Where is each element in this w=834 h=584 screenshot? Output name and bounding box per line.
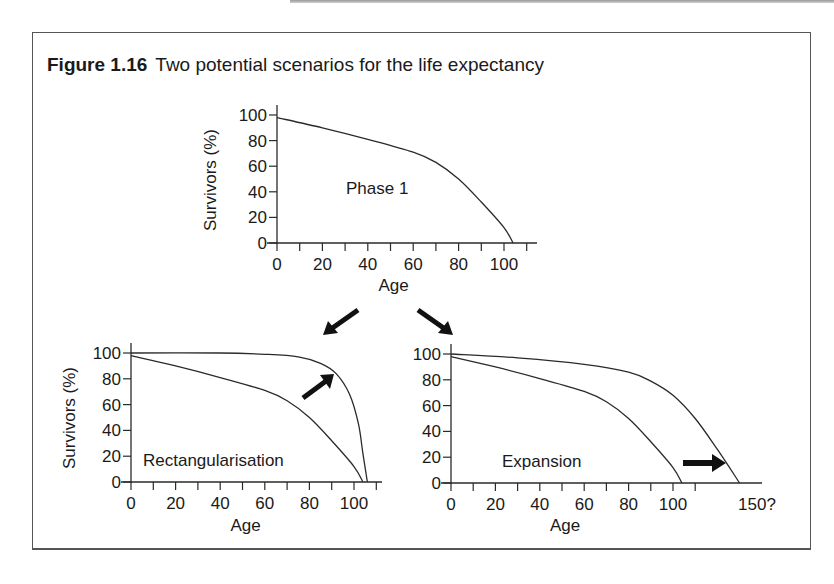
panel-annotation: Phase 1	[346, 179, 408, 198]
x-tick-label: 40	[211, 494, 230, 513]
y-tick-label: 40	[102, 421, 121, 440]
scenario-arrows	[303, 310, 726, 472]
y-tick-label: 40	[422, 422, 441, 441]
y-tick-label: 80	[102, 370, 121, 389]
y-tick-label: 100	[239, 106, 267, 125]
arrow-to-rectangularisation-icon	[331, 310, 358, 329]
figure-canvas: 020406080100020406080100AgeSurvivors (%)…	[0, 0, 834, 584]
y-axis-label: Survivors (%)	[60, 367, 79, 469]
x-tick-label: 100	[490, 255, 518, 274]
panel-annotation: Rectangularisation	[143, 451, 284, 470]
chart-expansion: 020406080100020406080100150?AgeExpansion	[413, 344, 776, 535]
y-tick-label: 100	[93, 344, 121, 363]
arrow-upward-shift-icon	[303, 381, 326, 398]
chart-phase-1: 020406080100020406080100AgeSurvivors (%)…	[201, 105, 537, 295]
x-axis-label: Age	[550, 516, 580, 535]
y-tick-label: 80	[248, 132, 267, 151]
y-tick-label: 0	[258, 234, 267, 253]
x-tick-label: 80	[300, 494, 319, 513]
x-axis-label: Age	[230, 516, 260, 535]
x-axis-label: Age	[378, 276, 408, 295]
x-tick-label: 60	[404, 255, 423, 274]
y-tick-label: 0	[112, 473, 121, 492]
x-tick-label: 40	[530, 495, 549, 514]
x-tick-label: 60	[255, 494, 274, 513]
y-tick-label: 100	[413, 345, 441, 364]
x-tick-label: 20	[486, 495, 505, 514]
y-tick-label: 60	[422, 397, 441, 416]
x-tick-label: 0	[126, 494, 135, 513]
x-tick-label: 0	[272, 255, 281, 274]
panel-annotation: Expansion	[502, 452, 581, 471]
y-tick-label: 60	[248, 157, 267, 176]
y-tick-label: 40	[248, 183, 267, 202]
x-tick-label-extra: 150?	[738, 495, 776, 514]
x-tick-label: 40	[358, 255, 377, 274]
y-tick-label: 60	[102, 396, 121, 415]
y-tick-label: 20	[102, 447, 121, 466]
x-tick-label: 0	[446, 495, 455, 514]
x-tick-label: 80	[619, 495, 638, 514]
y-tick-label: 80	[422, 371, 441, 390]
y-tick-label: 0	[432, 474, 441, 493]
y-axis-label: Survivors (%)	[201, 129, 220, 231]
arrow-head-icon	[712, 454, 726, 472]
x-tick-label: 60	[575, 495, 594, 514]
chart-rectangularisation: 020406080100020406080100AgeSurvivors (%)…	[60, 343, 382, 535]
x-tick-label: 80	[449, 255, 468, 274]
x-tick-label: 100	[340, 494, 368, 513]
y-tick-label: 20	[248, 208, 267, 227]
x-tick-label: 20	[166, 494, 185, 513]
arrow-to-expansion-icon	[418, 310, 445, 329]
x-tick-label: 20	[313, 255, 332, 274]
x-tick-label: 100	[659, 495, 687, 514]
y-tick-label: 20	[422, 448, 441, 467]
